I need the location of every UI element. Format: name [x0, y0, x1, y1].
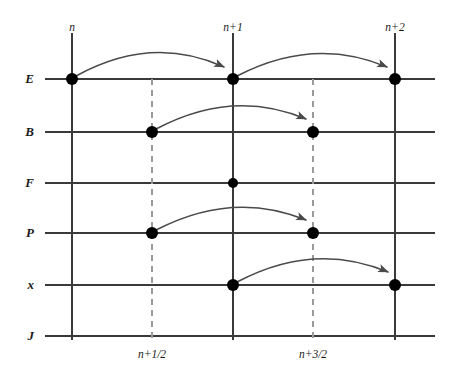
update-arrow-E-n-to-n1 — [76, 52, 224, 76]
sample-point-E-n — [66, 73, 78, 85]
column-label-nh: n+1/2 — [138, 349, 166, 361]
row-label-E: E — [8, 72, 34, 85]
row-label-x: x — [8, 278, 34, 291]
sample-point-F-n1 — [228, 178, 238, 188]
update-arrows-group — [76, 52, 388, 282]
sample-point-E-n2 — [389, 73, 401, 85]
diagram-canvas — [0, 0, 451, 381]
sample-point-B-nh — [146, 126, 158, 138]
sample-point-P-n3h — [307, 227, 319, 239]
update-arrow-B-nh-to-n3h — [156, 106, 306, 129]
column-label-n: n — [69, 22, 75, 34]
column-label-n1: n+1 — [223, 22, 242, 34]
field-update-leapfrog-diagram: EBFPxJ nn+1/2n+1n+3/2n+2 — [0, 0, 451, 381]
row-label-J: J — [8, 329, 34, 342]
update-arrow-P-nh-to-n3h — [156, 207, 306, 230]
update-arrow-E-n1-to-n2 — [237, 53, 387, 76]
row-label-P: P — [8, 226, 34, 239]
row-label-B: B — [8, 125, 34, 138]
sample-point-x-n1 — [227, 279, 239, 291]
sample-point-x-n2 — [389, 279, 401, 291]
column-label-n2: n+2 — [385, 22, 404, 34]
sample-point-E-n1 — [227, 73, 239, 85]
column-label-n3h: n+3/2 — [299, 349, 327, 361]
row-label-F: F — [8, 176, 34, 189]
sample-point-B-n3h — [307, 126, 319, 138]
sample-point-P-nh — [146, 227, 158, 239]
